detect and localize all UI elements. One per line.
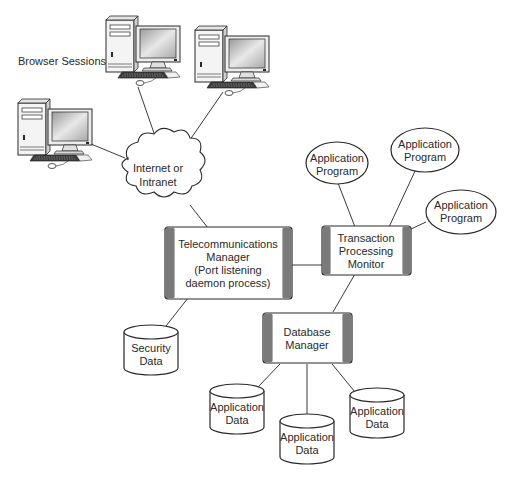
app-program-1-line-2: Program	[316, 165, 358, 177]
app-program-3-line-1: Application	[434, 199, 488, 211]
telecom-line-1: Telecommunications	[178, 238, 278, 250]
architecture-diagram: Browser Sessions Internet or Intranet Te…	[0, 0, 511, 481]
telecom-line-2: Manager	[206, 251, 250, 263]
app-data-2-line-1: Application	[280, 431, 334, 443]
network-label-line1: Internet or	[133, 162, 183, 174]
browser-sessions-label: Browser Sessions	[18, 55, 107, 67]
application-data-cylinder-1: Application Data	[210, 384, 264, 434]
security-data-line-2: Data	[139, 355, 163, 367]
connector-app3-tpmonitor	[411, 222, 426, 229]
db-line-1: Database	[283, 326, 330, 338]
tp-line-3: Monitor	[348, 258, 385, 270]
app-program-3-line-2: Program	[440, 212, 482, 224]
connector-client1-network	[91, 144, 125, 158]
db-manager-box: Database Manager	[263, 313, 352, 363]
connector-telecom-security	[166, 298, 188, 326]
computer-icon	[106, 16, 180, 86]
security-data-cylinder: Security Data	[124, 325, 178, 375]
app-data-1-line-2: Data	[225, 414, 249, 426]
tp-line-1: Transaction	[337, 232, 394, 244]
app-program-1-line-1: Application	[310, 152, 364, 164]
computer-icon	[195, 26, 269, 96]
connector-db-appdata3	[332, 364, 355, 392]
app-data-3-line-2: Data	[365, 418, 389, 430]
application-data-cylinder-2: Application Data	[280, 414, 334, 464]
telecom-line-4: daemon process)	[186, 277, 271, 289]
connector-app2-tpmonitor	[389, 169, 416, 227]
connector-network-telecom	[190, 205, 208, 228]
application-program-3: Application Program	[426, 190, 496, 234]
network-cloud: Internet or Intranet	[122, 128, 205, 197]
connector-db-appdata1	[258, 364, 280, 387]
app-data-2-line-2: Data	[295, 444, 319, 456]
app-program-2-line-2: Program	[404, 151, 446, 163]
connector-tpmonitor-dbmanager	[333, 274, 355, 312]
telecom-line-3: (Port listening	[194, 264, 261, 276]
application-program-1: Application Program	[306, 142, 368, 184]
db-line-2: Manager	[285, 339, 329, 351]
app-data-3-line-1: Application	[350, 405, 404, 417]
tp-line-2: Processing	[339, 245, 393, 257]
tp-monitor-box: Transaction Processing Monitor	[322, 226, 411, 275]
application-data-cylinder-3: Application Data	[350, 388, 404, 438]
telecom-manager-box: Telecommunications Manager (Port listeni…	[165, 227, 292, 299]
app-data-1-line-1: Application	[210, 401, 264, 413]
security-data-line-1: Security	[131, 342, 171, 354]
computer-icon	[18, 99, 92, 169]
connector-client2-network	[138, 87, 155, 136]
connector-app1-tpmonitor	[338, 183, 355, 227]
network-label-line2: Intranet	[139, 176, 176, 188]
app-program-2-line-1: Application	[398, 138, 452, 150]
application-program-2: Application Program	[391, 128, 459, 172]
